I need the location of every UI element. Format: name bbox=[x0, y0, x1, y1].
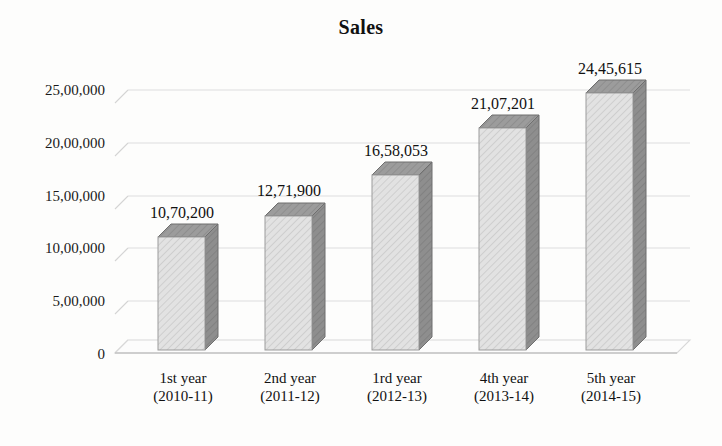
value-label-5th-year: 24,45,615 bbox=[550, 61, 670, 77]
x-axis-label-2nd-year-line1: 2nd year bbox=[264, 370, 316, 386]
bar-3rd-year bbox=[372, 162, 432, 350]
x-axis-label-1st-year-line1: 1st year bbox=[159, 370, 206, 386]
y-axis-tick-10l: 10,00,000 bbox=[10, 241, 105, 256]
value-label-4th-year: 21,07,201 bbox=[443, 96, 563, 112]
bar-2nd-year bbox=[265, 203, 325, 350]
y-axis-tick-15l: 15,00,000 bbox=[10, 189, 105, 204]
y-axis-tick-20l: 20,00,000 bbox=[10, 136, 105, 151]
y-axis-tick-0: 0 bbox=[10, 347, 105, 362]
chart-container: Sales bbox=[0, 0, 722, 446]
bar-1st-year bbox=[158, 224, 218, 350]
x-axis-label-5th-year: 5th year (2014-15) bbox=[546, 369, 676, 406]
y-axis-tick-25l: 25,00,000 bbox=[10, 83, 105, 98]
x-axis-label-5th-year-line1: 5th year bbox=[587, 370, 636, 386]
value-label-1st-year: 10,70,200 bbox=[122, 205, 242, 221]
value-label-3rd-year: 16,58,053 bbox=[336, 143, 456, 159]
value-label-2nd-year: 12,71,900 bbox=[229, 183, 349, 199]
x-axis-label-3rd-year-line1: 1rd year bbox=[372, 370, 422, 386]
axis-depth-edge bbox=[115, 90, 128, 353]
x-axis-label-4th-year-line1: 4th year bbox=[480, 370, 529, 386]
y-axis-tick-5l: 5,00,000 bbox=[10, 294, 105, 309]
x-axis-label-5th-year-line2: (2014-15) bbox=[546, 387, 676, 405]
bar-5th-year bbox=[586, 80, 646, 350]
bar-4th-year bbox=[479, 115, 539, 350]
